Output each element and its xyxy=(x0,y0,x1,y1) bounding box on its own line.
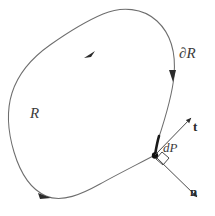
normal-vector-label: n xyxy=(190,185,197,198)
boundary-orientation-arrowhead-right xyxy=(169,70,176,82)
tangent-vector-label: t xyxy=(193,120,197,133)
differential-element-label: dP xyxy=(163,141,177,154)
figure-canvas: R ∂R dP t n xyxy=(0,0,215,216)
region-boundary-curve xyxy=(8,9,174,198)
boundary-curve-label: ∂R xyxy=(179,46,196,61)
boundary-orientation-arrowhead-upper-left xyxy=(84,51,95,58)
boundary-orientation-arrowhead-lower-left xyxy=(38,193,51,199)
region-interior-label: R xyxy=(30,106,39,121)
